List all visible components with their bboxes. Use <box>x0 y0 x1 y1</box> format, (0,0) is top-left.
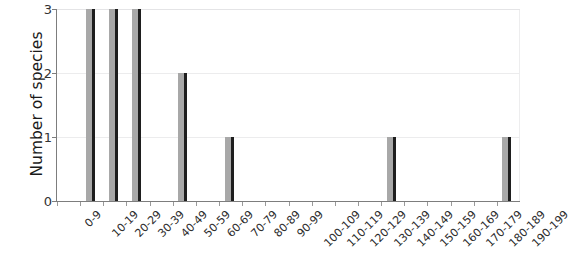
y-tick-label: 2 <box>6 66 52 81</box>
x-tick-mark <box>196 202 197 206</box>
x-tick-label: 0-9 <box>82 208 104 230</box>
x-tick-mark <box>451 202 452 206</box>
bar <box>502 137 511 201</box>
y-axis-line <box>56 9 57 202</box>
x-tick-mark <box>57 202 58 206</box>
bar <box>109 9 118 201</box>
x-tick-mark <box>474 202 475 206</box>
x-tick-mark <box>358 202 359 206</box>
x-tick-mark <box>497 202 498 206</box>
gridline <box>57 9 520 10</box>
x-tick-mark <box>335 202 336 206</box>
y-tick-label: 1 <box>6 130 52 145</box>
plot-right-border <box>519 9 520 201</box>
bar <box>387 137 396 201</box>
x-tick-mark <box>381 202 382 206</box>
bar <box>225 137 234 201</box>
x-tick-mark <box>126 202 127 206</box>
x-tick-mark <box>80 202 81 206</box>
x-tick-mark <box>103 202 104 206</box>
x-tick-mark <box>219 202 220 206</box>
gridline <box>57 137 520 138</box>
plot-area <box>57 9 520 201</box>
x-tick-mark <box>242 202 243 206</box>
x-tick-mark <box>265 202 266 206</box>
y-axis-ticks: 0123 <box>0 0 52 259</box>
x-tick-mark <box>289 202 290 206</box>
bar <box>86 9 95 201</box>
gridline <box>57 73 520 74</box>
x-tick-mark <box>173 202 174 206</box>
x-tick-mark <box>150 202 151 206</box>
x-tick-mark <box>312 202 313 206</box>
x-tick-mark <box>404 202 405 206</box>
y-tick-label: 3 <box>6 2 52 17</box>
bar <box>178 73 187 201</box>
bar <box>132 9 141 201</box>
x-tick-mark <box>427 202 428 206</box>
y-tick-label: 0 <box>6 194 52 209</box>
